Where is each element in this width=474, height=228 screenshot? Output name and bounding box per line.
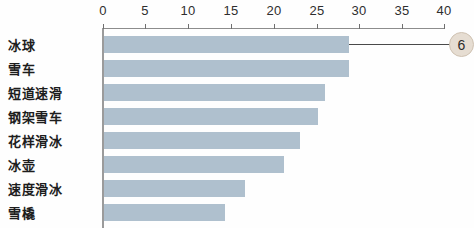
- x-axis-tick-label: 20: [267, 3, 282, 18]
- x-axis-tick-label: 10: [181, 3, 196, 18]
- category-label: 冰壶: [8, 155, 35, 174]
- x-axis-tick-mark: [231, 24, 232, 29]
- bar: [104, 108, 318, 125]
- x-axis-tick-mark: [103, 24, 104, 29]
- x-axis-tick-mark: [274, 24, 275, 29]
- x-axis-tick-label: 25: [310, 3, 325, 18]
- category-label: 雪车: [8, 59, 35, 78]
- x-axis-tick-label: 5: [141, 3, 148, 18]
- callout-leader-line: [349, 44, 453, 45]
- x-axis-tick-mark: [188, 24, 189, 29]
- bar: [104, 132, 300, 149]
- x-axis-tick-mark: [444, 24, 445, 29]
- bar-chart: 0510152025303540 冰球雪车短道速滑钢架雪车花样滑冰冰壶速度滑冰雪…: [0, 0, 474, 228]
- category-label: 钢架雪车: [8, 107, 62, 126]
- x-axis-tick-mark: [359, 24, 360, 29]
- x-axis-tick-label: 35: [395, 3, 410, 18]
- category-label: 速度滑冰: [8, 179, 62, 198]
- category-label: 花样滑冰: [8, 131, 62, 150]
- bar: [104, 36, 349, 53]
- x-axis-tick-mark: [317, 24, 318, 29]
- category-label: 冰球: [8, 35, 35, 54]
- y-axis-line: [102, 28, 104, 228]
- x-axis-tick-label: 40: [437, 3, 452, 18]
- x-axis-tick-label: 30: [352, 3, 367, 18]
- bar: [104, 60, 349, 77]
- bar: [104, 156, 284, 173]
- bar: [104, 84, 325, 101]
- category-label: 雪橇: [8, 203, 35, 222]
- x-axis-tick-label: 0: [99, 3, 106, 18]
- x-axis-tick-mark: [145, 24, 146, 29]
- bar: [104, 180, 245, 197]
- x-axis-tick-label: 15: [224, 3, 239, 18]
- x-axis-tick-labels: 0510152025303540: [0, 0, 474, 24]
- category-label: 短道速滑: [8, 83, 62, 102]
- bar: [104, 204, 225, 221]
- callout-badge[interactable]: 6: [449, 32, 474, 57]
- x-axis-tick-mark: [402, 24, 403, 29]
